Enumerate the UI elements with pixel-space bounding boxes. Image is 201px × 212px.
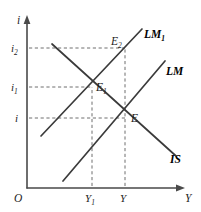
x-axis-label: Y [185, 192, 193, 204]
y-tick-labels-group: i2 i1 i [11, 42, 18, 124]
is-lm-figure: i Y O i2 i1 i Y1 Y [0, 0, 201, 212]
equilibrium-label-e: E [130, 112, 138, 124]
is-curve-label: IS [169, 153, 181, 165]
y-tick-i1: i1 [11, 81, 18, 96]
x-axis-arrowhead [176, 185, 185, 192]
lm-curve-label: LM [165, 65, 184, 77]
x-tick-labels-group: Y1 Y [85, 192, 128, 207]
y-tick-i2: i2 [11, 42, 18, 57]
axis-labels-group: i Y O [14, 14, 193, 204]
y-axis-arrowhead [24, 15, 31, 24]
is-curve [52, 44, 176, 156]
lm1-curve-label: LM1 [143, 28, 165, 43]
y-tick-i: i [15, 112, 18, 124]
x-tick-y1: Y1 [85, 192, 95, 207]
curves-group [41, 29, 176, 181]
x-tick-y: Y [120, 192, 128, 204]
y-axis-label: i [17, 14, 20, 26]
origin-label: O [14, 192, 23, 204]
equilibrium-label-e2: E2 [110, 35, 122, 50]
equilibrium-label-e1: E1 [95, 81, 107, 96]
is-lm-chart-canvas: i Y O i2 i1 i Y1 Y [0, 0, 201, 212]
lm-curve [63, 61, 165, 181]
